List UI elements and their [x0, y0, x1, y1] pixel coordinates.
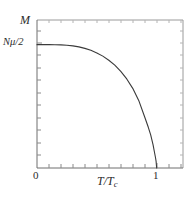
x-axis-tick-label-0: 0 [33, 170, 39, 181]
magnetization-curve [37, 45, 157, 168]
x-axis-title: T/Tc [97, 175, 118, 189]
plot-frame [37, 20, 183, 168]
x-axis-ticks [49, 163, 181, 168]
x-axis-title-numerator: T [97, 174, 104, 188]
y-axis-max-tick-label: Nμ/2 [3, 37, 23, 48]
plot-canvas [0, 0, 193, 198]
magnetization-chart: M Nμ/2 T/Tc 0 1 [0, 0, 193, 198]
x-axis-title-subscript: c [114, 179, 118, 189]
x-axis-title-denominator: T [107, 174, 114, 188]
x-axis-tick-label-1: 1 [153, 170, 159, 181]
y-axis-ticks [37, 31, 42, 155]
y-axis-title: M [20, 14, 30, 26]
